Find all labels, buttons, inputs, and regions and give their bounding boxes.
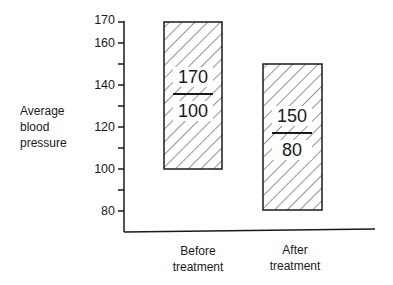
systolic-value: 170 bbox=[173, 67, 213, 87]
y-axis-title-line: blood bbox=[20, 119, 67, 135]
y-axis-title-line: pressure bbox=[20, 135, 67, 151]
y-tick-label: 120 bbox=[85, 120, 115, 134]
diastolic-value: 80 bbox=[272, 140, 312, 160]
y-tick-label: 170 bbox=[85, 13, 115, 27]
y-tick-label: 160 bbox=[85, 36, 115, 50]
x-category-line: treatment bbox=[250, 258, 340, 274]
x-category-line: treatment bbox=[153, 259, 243, 275]
x-axis-line bbox=[124, 229, 375, 232]
y-axis-title-line: Average bbox=[20, 103, 67, 119]
fraction-rule bbox=[173, 93, 213, 95]
systolic-value: 150 bbox=[272, 106, 312, 126]
x-category-line: Before bbox=[153, 243, 243, 259]
y-axis-title: Average blood pressure bbox=[20, 103, 67, 151]
y-tick-label: 100 bbox=[85, 162, 115, 176]
diastolic-value: 100 bbox=[173, 101, 213, 121]
bar-value-label-before: 170 100 bbox=[164, 67, 222, 121]
x-category-before: Before treatment bbox=[153, 243, 243, 275]
bar-value-label-after: 150 80 bbox=[263, 106, 321, 160]
fraction-rule bbox=[272, 132, 312, 134]
y-tick-label: 140 bbox=[85, 78, 115, 92]
y-tick-label: 80 bbox=[85, 204, 115, 218]
y-ticks bbox=[118, 22, 124, 211]
x-category-line: After bbox=[250, 242, 340, 258]
x-category-after: After treatment bbox=[250, 242, 340, 274]
